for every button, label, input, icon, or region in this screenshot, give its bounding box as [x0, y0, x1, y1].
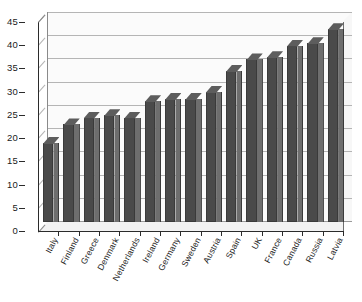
bar-side-face [216, 92, 222, 222]
bar-chart: 454035302520151050 ItalyFinlandGreeceDen… [0, 0, 362, 302]
x-axis-tick-label-text: Canada [282, 236, 304, 267]
bar-front-face [226, 71, 237, 222]
bar-side-face [114, 115, 120, 222]
y-axis-tick-label: 35 [0, 64, 18, 74]
bar-front-face [104, 115, 115, 222]
bar-side-face [53, 143, 59, 222]
bar-front-face [63, 124, 74, 222]
x-axis-tick-label-text: Sweden [180, 236, 202, 268]
y-axis-tick-mark [19, 161, 25, 162]
x-axis-tick-label-text: Spain [224, 236, 242, 260]
bar [287, 46, 298, 222]
bar [104, 115, 115, 222]
bar-side-face [338, 29, 344, 222]
y-axis-tick-label: 10 [0, 180, 18, 190]
bar-side-face [277, 57, 283, 222]
bar [165, 99, 176, 222]
y-axis-tick-mark [19, 115, 25, 116]
bar [328, 29, 339, 222]
bar-front-face [43, 143, 54, 222]
bar-side-face [318, 43, 324, 222]
y-axis-tick-mark [19, 231, 25, 232]
bar-side-face [257, 59, 263, 222]
y-axis-tick-mark [19, 185, 25, 186]
bar-front-face [307, 43, 318, 222]
bar-front-face [328, 29, 339, 222]
y-axis-tick-mark [19, 208, 25, 209]
bar-side-face [236, 71, 242, 222]
bar-front-face [206, 92, 217, 222]
bar [307, 43, 318, 222]
x-axis-tick-label-text: Russia [304, 236, 324, 264]
bar-side-face [175, 99, 181, 222]
bar-front-face [246, 59, 257, 222]
bar [63, 124, 74, 222]
y-axis-tick-label: 25 [0, 110, 18, 120]
y-axis-tick-mark [19, 68, 25, 69]
bars-container [38, 12, 352, 232]
bar-front-face [267, 57, 278, 222]
bar-side-face [94, 118, 100, 223]
y-axis-tick-label: 40 [0, 40, 18, 50]
bar [267, 57, 278, 222]
bar-side-face [196, 99, 202, 222]
bar-side-face [135, 118, 141, 223]
y-axis-tick-mark [19, 22, 25, 23]
y-axis-tick-label: 0 [0, 226, 18, 236]
bar-side-face [74, 124, 80, 222]
y-axis-tick-label: 15 [0, 157, 18, 167]
y-axis-tick-label: 5 [0, 203, 18, 213]
bar [84, 118, 95, 223]
x-axis-tick-label-text: Italy [44, 236, 59, 255]
x-axis-tick-label-text: France [263, 236, 283, 264]
bar [206, 92, 217, 222]
bar-front-face [287, 46, 298, 222]
bar [246, 59, 257, 222]
bar-front-face [84, 118, 95, 223]
x-axis-tick-label-text: Austria [202, 236, 223, 265]
x-axis-tick-label-text: Ireland [141, 236, 161, 264]
x-axis-tick-label-text: Latvia [326, 236, 345, 261]
bar-side-face [297, 46, 303, 222]
y-axis-tick-label: 30 [0, 87, 18, 97]
bar-front-face [165, 99, 176, 222]
y-axis-tick-mark [19, 138, 25, 139]
y-axis-tick-mark [19, 92, 25, 93]
x-axis-labels: ItalyFinlandGreeceDenmarkNetherlandsIrel… [38, 236, 352, 302]
bar [43, 143, 54, 222]
bar [226, 71, 237, 222]
y-axis-tick-mark [19, 45, 25, 46]
x-axis-tick-label-text: Finland [59, 236, 80, 266]
x-axis-tick-label-text: UK [250, 236, 263, 251]
y-axis: 454035302520151050 [0, 0, 40, 302]
y-axis-tick-label: 45 [0, 17, 18, 27]
y-axis-tick-label: 20 [0, 133, 18, 143]
